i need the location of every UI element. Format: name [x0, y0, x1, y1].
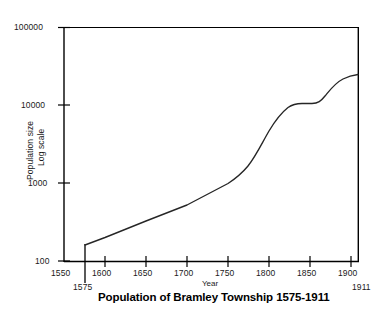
- x-tick-label-1750: 1750: [215, 268, 234, 278]
- x-tick-label-1911: 1911: [352, 282, 371, 292]
- population-curve: [85, 75, 358, 246]
- x-tick-label-1550: 1550: [51, 268, 70, 278]
- x-tick-label-1850: 1850: [297, 268, 316, 278]
- axis-frame: [64, 27, 359, 262]
- population-line-chart: [0, 0, 387, 314]
- x-tick-label-1800: 1800: [256, 268, 275, 278]
- y-tick-label-100000: 100000: [14, 22, 43, 32]
- y-axis-title-line1: Population size: [25, 121, 35, 180]
- x-tick-label-1900: 1900: [338, 268, 357, 278]
- chart-figure: 100000 10000 1000 100 Population size Lo…: [0, 0, 387, 314]
- chart-title: Population of Bramley Township 1575-1911: [98, 291, 330, 303]
- x-axis-title: Year: [202, 279, 218, 288]
- x-tick-label-1600: 1600: [92, 268, 111, 278]
- x-tick-label-1700: 1700: [174, 268, 193, 278]
- y-tick-label-100: 100: [35, 256, 49, 266]
- x-tick-label-1575: 1575: [73, 282, 92, 292]
- chart-screenshot: 100000 10000 1000 100 Population size Lo…: [0, 0, 387, 314]
- x-tick-label-1650: 1650: [133, 268, 152, 278]
- y-tick-label-10000: 10000: [21, 100, 45, 110]
- y-axis-title-line2: Log scale: [36, 129, 46, 166]
